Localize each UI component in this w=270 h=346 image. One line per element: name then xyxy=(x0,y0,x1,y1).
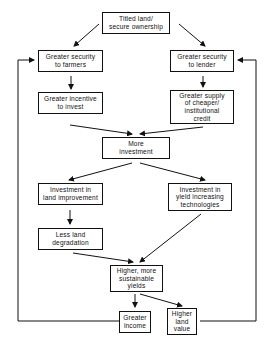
node-yield-tech: Investment in yield increasing technolog… xyxy=(168,183,232,211)
node-titled-land: Titled land/ secure ownership xyxy=(102,12,170,34)
node-land-value: Higher land value xyxy=(167,308,197,335)
arrow-investment-to-yield-tech xyxy=(140,163,205,180)
arrow-incentive-to-investment xyxy=(70,125,132,134)
node-more-investment: More investment xyxy=(102,137,170,159)
node-higher-yields: Higher, more sustainable yields xyxy=(110,265,163,292)
flowchart: Titled land/ secure ownership Greater se… xyxy=(0,0,270,346)
node-greater-income: Greater income xyxy=(119,311,151,333)
node-security-farmers: Greater security to farmers xyxy=(38,50,103,72)
arrow-yields-to-land-value xyxy=(140,294,182,306)
arrow-supply-to-investment xyxy=(140,127,203,134)
node-supply-credit: Greater supply of cheaper/ institutional… xyxy=(170,90,234,124)
node-land-improvement: Investment in land improvement xyxy=(38,183,103,205)
node-less-degradation: Less land degradation xyxy=(38,228,103,250)
arrow-titled-to-farmers xyxy=(74,24,99,46)
arrow-yieldtech-to-yields xyxy=(140,214,201,262)
node-incentive-invest: Greater incentive to invest xyxy=(38,92,103,114)
node-security-lender: Greater security to lender xyxy=(170,50,234,72)
arrow-titled-to-lender xyxy=(179,24,205,46)
arrow-degradation-to-yields xyxy=(73,253,133,262)
arrow-investment-to-land-improvement xyxy=(69,163,132,180)
